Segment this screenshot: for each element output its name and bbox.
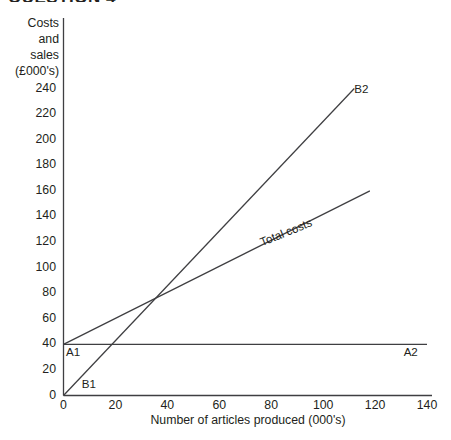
x-tick-40: 40	[147, 398, 187, 412]
x-tick-100: 100	[303, 398, 343, 412]
y-tick-100: 100	[12, 260, 56, 274]
x-axis-title: Number of articles produced (000's)	[63, 413, 433, 427]
y-tick-140: 140	[12, 208, 56, 222]
x-tick-140: 140	[407, 398, 447, 412]
x-tick-120: 120	[355, 398, 395, 412]
series-line-sales	[64, 89, 355, 396]
y-axis-title-line: (£000's)	[0, 64, 59, 80]
chart-figure: QUESTION 4 Costsandsales(£000's) 0204060…	[0, 0, 451, 440]
label-a2: A2	[404, 345, 418, 358]
series-line-total-costs	[64, 191, 370, 345]
y-tick-160: 160	[12, 183, 56, 197]
label-b1: B1	[82, 377, 96, 390]
y-tick-40: 40	[12, 336, 56, 350]
x-tick-80: 80	[251, 398, 291, 412]
x-tick-60: 60	[199, 398, 239, 412]
y-tick-180: 180	[12, 157, 56, 171]
y-tick-80: 80	[12, 285, 56, 299]
y-axis-title: Costsandsales(£000's)	[0, 16, 59, 79]
x-tick-20: 20	[95, 398, 135, 412]
x-tick-0: 0	[44, 398, 84, 412]
y-axis-title-line: and	[0, 32, 59, 48]
y-tick-20: 20	[12, 362, 56, 376]
label-b2: B2	[354, 82, 368, 95]
y-tick-220: 220	[12, 106, 56, 120]
label-a1: A1	[66, 345, 80, 358]
y-tick-60: 60	[12, 311, 56, 325]
y-axis-title-line: sales	[0, 48, 59, 64]
y-tick-200: 200	[12, 132, 56, 146]
y-axis-title-line: Costs	[0, 16, 59, 32]
y-tick-120: 120	[12, 234, 56, 248]
y-tick-240: 240	[12, 81, 56, 95]
chart-canvas	[0, 0, 451, 440]
